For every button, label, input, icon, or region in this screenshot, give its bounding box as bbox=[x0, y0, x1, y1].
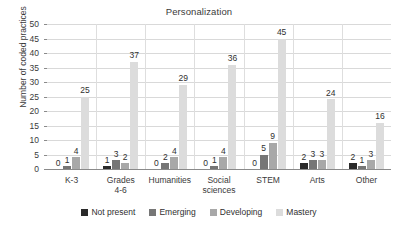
bar bbox=[300, 163, 308, 169]
legend-swatch-icon bbox=[149, 209, 156, 216]
y-axis-tick-label: 40 bbox=[0, 49, 39, 58]
bar-group: 05945 bbox=[244, 24, 293, 169]
bar-value-label: 36 bbox=[219, 54, 245, 63]
y-axis-tick-label: 20 bbox=[0, 107, 39, 116]
legend-label: Emerging bbox=[159, 208, 195, 217]
legend-item[interactable]: Mastery bbox=[276, 208, 316, 217]
chart-legend: Not presentEmergingDevelopingMastery bbox=[0, 208, 398, 217]
bar-value-label: 45 bbox=[269, 28, 295, 37]
bar-value-label: 29 bbox=[170, 74, 196, 83]
y-axis-tick-label: 10 bbox=[0, 136, 39, 145]
legend-item[interactable]: Not present bbox=[81, 208, 135, 217]
bar bbox=[219, 157, 227, 169]
bar-chart: Personalization Number of coded practice… bbox=[0, 0, 398, 242]
y-axis-tick-label: 0 bbox=[0, 165, 39, 174]
y-axis-tick-label: 35 bbox=[0, 64, 39, 73]
bar bbox=[318, 160, 326, 169]
bar bbox=[309, 160, 317, 169]
bar bbox=[103, 166, 111, 169]
bar bbox=[228, 65, 236, 169]
bar bbox=[367, 160, 375, 169]
legend-swatch-icon bbox=[210, 209, 217, 216]
y-axis-tick-label: 5 bbox=[0, 151, 39, 160]
bar-group: 01436 bbox=[194, 24, 243, 169]
bar bbox=[161, 163, 169, 169]
bar bbox=[130, 62, 138, 169]
bar bbox=[376, 123, 384, 169]
y-axis-tick-label: 25 bbox=[0, 93, 39, 102]
bar-group: 23324 bbox=[293, 24, 342, 169]
legend-swatch-icon bbox=[81, 209, 88, 216]
bar bbox=[260, 155, 268, 170]
x-axis-label: Other bbox=[334, 175, 398, 185]
legend-label: Developing bbox=[220, 208, 263, 217]
bar-value-label: 25 bbox=[72, 86, 98, 95]
bar bbox=[112, 160, 120, 169]
bar bbox=[63, 166, 71, 169]
bar bbox=[358, 166, 366, 169]
gridline bbox=[47, 169, 391, 170]
y-axis-tick-label: 15 bbox=[0, 122, 39, 131]
y-axis-tick-label: 45 bbox=[0, 35, 39, 44]
legend-swatch-icon bbox=[276, 209, 283, 216]
bar bbox=[327, 99, 335, 169]
legend-label: Mastery bbox=[286, 208, 316, 217]
bar-group: 02429 bbox=[145, 24, 194, 169]
bar bbox=[170, 157, 178, 169]
bar-group: 13237 bbox=[96, 24, 145, 169]
y-axis-tick-mark bbox=[44, 169, 47, 170]
bar-group: 01425 bbox=[47, 24, 96, 169]
bar bbox=[269, 143, 277, 169]
legend-item[interactable]: Developing bbox=[210, 208, 263, 217]
bar-value-label: 24 bbox=[318, 89, 344, 98]
y-axis-tick-label: 50 bbox=[0, 20, 39, 29]
bar bbox=[278, 39, 286, 170]
bar-value-label: 37 bbox=[121, 51, 147, 60]
chart-title: Personalization bbox=[0, 6, 398, 17]
bar bbox=[81, 97, 89, 170]
bar-group: 21316 bbox=[342, 24, 391, 169]
plot-area: 05101520253035404550 0142513237024290143… bbox=[47, 24, 391, 169]
y-axis-tick-label: 30 bbox=[0, 78, 39, 87]
bar bbox=[121, 163, 129, 169]
bar bbox=[179, 85, 187, 169]
legend-label: Not present bbox=[91, 208, 135, 217]
bar-value-label: 16 bbox=[367, 112, 393, 121]
legend-item[interactable]: Emerging bbox=[149, 208, 195, 217]
bar bbox=[210, 166, 218, 169]
bar bbox=[72, 157, 80, 169]
